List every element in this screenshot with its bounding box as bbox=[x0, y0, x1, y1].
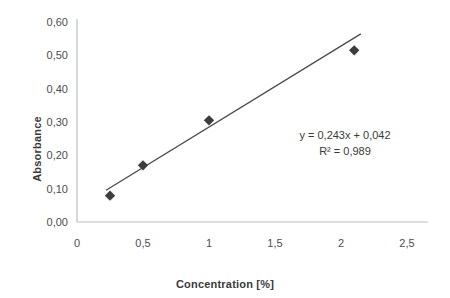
x-tick-label: 0,5 bbox=[135, 238, 150, 249]
regression-equation-text: y = 0,243x + 0,042 bbox=[285, 128, 405, 144]
data-point-marker bbox=[349, 45, 359, 55]
r-squared-text: R² = 0,989 bbox=[285, 144, 405, 160]
y-tick-label: 0,40 bbox=[28, 84, 68, 95]
y-axis-title: Absorbance bbox=[31, 116, 43, 182]
x-tick-label: 2 bbox=[338, 238, 344, 249]
scatter-chart: 0,60 0,50 0,40 0,30 0,20 0,10 0,00 0 0,5… bbox=[0, 0, 450, 298]
y-tick-label: 0,50 bbox=[28, 50, 68, 61]
x-tick-label: 0 bbox=[74, 238, 80, 249]
data-point-marker bbox=[138, 160, 148, 170]
x-tick-label: 1 bbox=[206, 238, 212, 249]
axis-lines bbox=[77, 19, 428, 222]
data-point-markers bbox=[105, 45, 360, 201]
x-axis-title: Concentration [%] bbox=[0, 278, 450, 290]
trendline-equation-annotation: y = 0,243x + 0,042 R² = 0,989 bbox=[285, 128, 405, 160]
data-point-marker bbox=[204, 115, 214, 125]
y-tick-label: 0,10 bbox=[28, 184, 68, 195]
data-point-marker bbox=[105, 190, 115, 200]
x-tick-label: 1,5 bbox=[267, 238, 282, 249]
y-tick-label: 0,60 bbox=[28, 17, 68, 28]
y-tick-label: 0,00 bbox=[28, 217, 68, 228]
x-tick-label: 2,5 bbox=[399, 238, 414, 249]
